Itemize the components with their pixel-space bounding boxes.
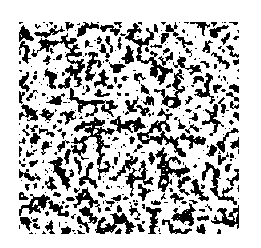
speckle-texture-image — [19, 22, 239, 234]
speckle-texture-canvas — [19, 22, 239, 234]
